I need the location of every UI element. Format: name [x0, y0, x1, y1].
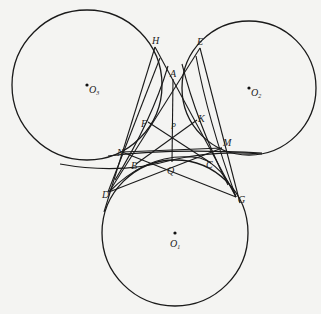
label-G: G	[238, 194, 245, 205]
geometry-diagram: H E A F K P N M B C Q D G O3 O2 O1	[0, 0, 321, 314]
line-ED	[109, 48, 200, 192]
center-o1	[173, 231, 176, 234]
line-DM	[109, 148, 222, 192]
label-Q: Q	[167, 165, 175, 176]
label-N: N	[116, 147, 125, 158]
label-O3: O3	[89, 84, 99, 96]
label-A: A	[169, 68, 177, 79]
line-EG	[200, 48, 240, 203]
label-M: M	[222, 137, 232, 148]
label-O2: O2	[251, 87, 261, 99]
label-D: D	[101, 189, 110, 200]
label-F: F	[140, 118, 148, 129]
label-B: B	[131, 160, 137, 171]
label-K: K	[197, 113, 206, 124]
label-C: C	[206, 159, 213, 170]
label-E: E	[196, 36, 203, 47]
label-H: H	[151, 35, 160, 46]
label-O1: O1	[170, 238, 180, 250]
label-P: P	[170, 122, 176, 131]
